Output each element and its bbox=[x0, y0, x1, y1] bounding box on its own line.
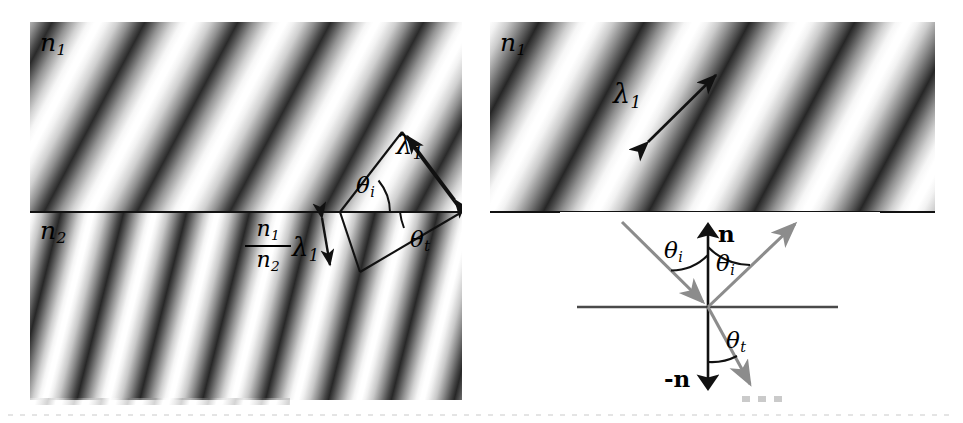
label-lambda1-right-sub: 1 bbox=[630, 92, 641, 112]
scan-artifact-right bbox=[742, 396, 784, 402]
right-panel-wavelength-arrow bbox=[490, 22, 935, 212]
label-normal-n-text: n bbox=[718, 220, 735, 247]
label-lambda1-incident-sub: 1 bbox=[413, 144, 423, 163]
label-lambda1-incident-text: λ bbox=[396, 130, 412, 160]
incident-ray bbox=[622, 222, 703, 302]
ratio-numerator: n1 bbox=[245, 218, 291, 243]
label-lambda1-transmitted: λ1 bbox=[292, 234, 319, 264]
label-lambda1-right: λ1 bbox=[613, 80, 641, 110]
label-normal-n: n bbox=[718, 222, 735, 245]
label-theta-t-left-sub: t bbox=[424, 238, 430, 254]
ratio-denominator: n2 bbox=[245, 249, 291, 274]
transmitted-wavelength-arrow bbox=[322, 218, 330, 265]
theta-t-arc bbox=[708, 356, 737, 362]
left-panel: n1 n2 bbox=[30, 22, 462, 400]
label-lambda1-right-text: λ bbox=[613, 78, 630, 109]
label-theta-t-left: θt bbox=[410, 228, 430, 253]
label-theta-i-left-text: θ bbox=[356, 172, 370, 198]
label-normal-negative-n: -n bbox=[664, 367, 690, 390]
label-theta-i-incident: θi bbox=[664, 239, 683, 264]
label-theta-t-ray: θt bbox=[726, 329, 746, 354]
label-theta-i-reflected: θi bbox=[716, 252, 735, 277]
label-lambda1-incident: λ1 bbox=[396, 132, 423, 162]
theta-t-arc-left bbox=[400, 212, 404, 228]
left-panel-construction bbox=[30, 22, 462, 400]
scan-artifact-left bbox=[30, 398, 290, 405]
label-lambda1-transmitted-text: λ bbox=[292, 232, 308, 262]
label-normal-negative-n-text: -n bbox=[664, 365, 690, 392]
label-theta-i-left-sub: i bbox=[370, 184, 375, 200]
scan-artifact-baseline bbox=[8, 414, 955, 416]
refraction-figure: n1 n2 bbox=[0, 0, 963, 423]
theta-i-arc-left bbox=[379, 181, 391, 213]
right-top-panel: n1 λ1 bbox=[490, 22, 935, 212]
label-lambda1-transmitted-sub: 1 bbox=[309, 246, 319, 265]
label-theta-t-left-text: θ bbox=[410, 226, 424, 252]
wavelength-double-arrow bbox=[648, 75, 716, 142]
label-theta-i-left: θi bbox=[356, 174, 375, 199]
ray-diagram-panel: n -n θi θi θt bbox=[560, 212, 880, 412]
label-refractive-index-ratio: n1 n2 bbox=[245, 218, 291, 273]
